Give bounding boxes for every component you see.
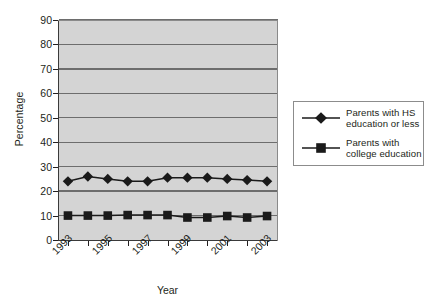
square-marker-icon <box>301 141 341 155</box>
diamond-data-point <box>142 176 152 186</box>
x-axis-tick-mark <box>128 241 129 246</box>
diamond-data-point <box>83 171 93 181</box>
y-axis-tick-labels: 0102030405060708090 <box>26 20 52 240</box>
legend-label-hs: Parents with HS education or less <box>346 107 424 129</box>
y-axis-tick-label: 10 <box>26 211 52 221</box>
legend-label-college-line2: college education <box>346 148 424 159</box>
x-axis-tick-mark <box>247 241 248 246</box>
diamond-data-point <box>162 172 172 182</box>
y-axis-tick-label: 30 <box>26 162 52 172</box>
square-data-point <box>183 213 192 222</box>
legend-entry-college: Parents with college education <box>294 138 423 166</box>
legend-label-hs-line2: education or less <box>346 118 424 129</box>
square-data-point <box>143 211 152 220</box>
series-college <box>64 211 272 222</box>
legend-label-hs-line1: Parents with HS <box>346 107 424 118</box>
x-axis-tick-mark <box>168 241 169 246</box>
legend-label-college-line1: Parents with <box>346 137 424 148</box>
y-axis-tick-label: 80 <box>26 39 52 49</box>
legend-entry-hs: Parents with HS education or less <box>294 108 423 136</box>
diamond-data-point <box>63 176 73 186</box>
square-data-point <box>84 211 93 220</box>
y-axis-tick-label: 60 <box>26 88 52 98</box>
y-axis-tick-label: 90 <box>26 15 52 25</box>
diamond-data-point <box>122 176 132 186</box>
square-data-point <box>243 213 252 222</box>
y-axis-tick-label: 20 <box>26 186 52 196</box>
diamond-data-point <box>103 174 113 184</box>
square-data-point <box>123 211 132 220</box>
square-data-point <box>223 212 232 221</box>
x-axis-tick-mark <box>88 241 89 246</box>
y-axis-tick-label: 70 <box>26 64 52 74</box>
y-axis-tick-label: 40 <box>26 137 52 147</box>
diamond-data-point <box>182 172 192 182</box>
diamond-data-point <box>222 174 232 184</box>
data-series-layer <box>58 20 277 240</box>
square-data-point <box>163 211 172 220</box>
square-data-point <box>203 213 212 222</box>
diamond-data-point <box>202 172 212 182</box>
x-axis-tick-label: 1993 <box>50 232 74 256</box>
line-chart: Percentage 0102030405060708090 199319951… <box>0 0 430 307</box>
x-axis-title: Year <box>58 284 277 296</box>
legend-label-college: Parents with college education <box>346 137 424 159</box>
square-data-point <box>64 211 73 220</box>
diamond-data-point <box>242 175 252 185</box>
diamond-data-point <box>262 176 272 186</box>
plot-right-border <box>277 20 278 241</box>
chart-legend: Parents with HS education or less Parent… <box>293 101 424 166</box>
x-axis-tick-mark <box>207 241 208 246</box>
y-axis-tick-label: 50 <box>26 113 52 123</box>
diamond-marker-icon <box>301 111 341 125</box>
series-hs <box>63 171 272 186</box>
square-data-point <box>263 212 272 221</box>
y-axis-title: Percentage <box>13 69 25 169</box>
y-axis-tick-label: 0 <box>26 235 52 245</box>
square-data-point <box>103 211 112 220</box>
